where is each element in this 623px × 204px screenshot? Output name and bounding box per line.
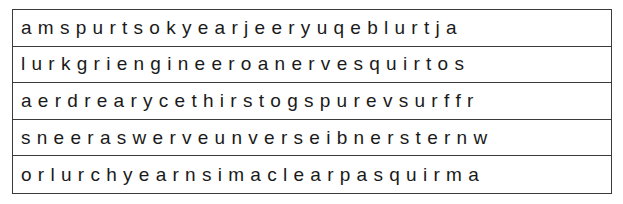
letter-row-4: s n e e r a s w e r v e u n v e r s e i … [13,120,611,157]
letter-strip-grid: a m s p u r t s o k y e a r j e e r y u … [12,9,612,194]
letter-row-5: o r l u r c h y e a r n s i m a c l e a … [13,156,611,193]
letter-row-1: a m s p u r t s o k y e a r j e e r y u … [13,10,611,47]
letter-row-3: a e r d r e a r y c e t h i r s t o g s … [13,83,611,120]
letter-row-2: l u r k g r i e n g i n e e r o a n e r … [13,47,611,84]
